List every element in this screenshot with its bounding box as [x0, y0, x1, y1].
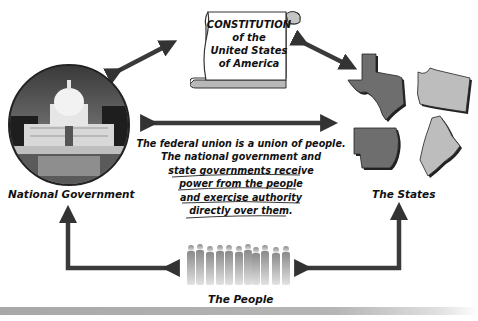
- the-people-label: The People: [208, 293, 273, 305]
- bottom-divider-bar: [0, 307, 478, 315]
- people-crowd-icon: [183, 243, 295, 289]
